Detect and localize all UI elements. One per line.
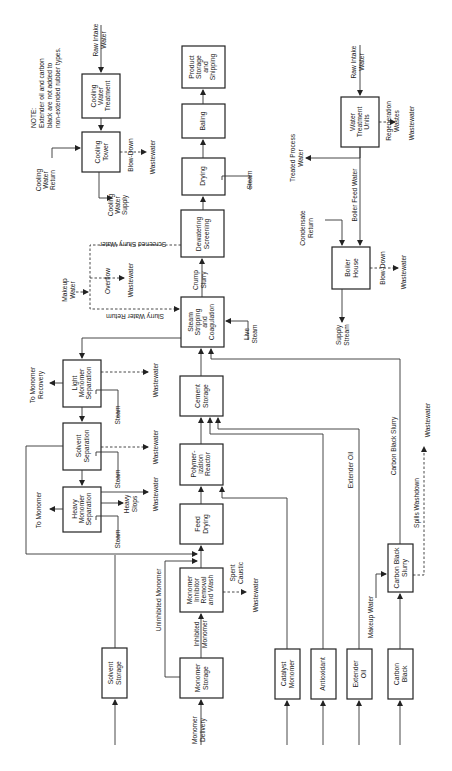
svg-text:CondensateReturn: CondensateReturn — [299, 210, 314, 246]
box-baling: Baling — [182, 104, 225, 138]
box-water-treatment-units: WaterTreatmentUnits — [341, 97, 379, 147]
svg-text:Polymer-izationReactor: Polymer-izationReactor — [190, 450, 211, 477]
box-solvent-separation: SolventSeparation — [63, 423, 101, 470]
box-drying: Drying — [182, 158, 225, 195]
svg-text:CrumpSlurry: CrumpSlurry — [192, 270, 208, 290]
svg-text:Uninhibited Monomer: Uninhibited Monomer — [155, 568, 162, 631]
svg-text:Steam: Steam — [114, 405, 121, 425]
svg-text:MonomerStorage: MonomerStorage — [194, 663, 210, 692]
box-inhibitor-removal: MonomerInhibitorRemovaland Wash — [180, 568, 223, 612]
svg-text:CatalystMonomer: CatalystMonomer — [280, 659, 295, 688]
box-feed-drying: FeedDrying — [180, 504, 223, 544]
svg-text:MakeupWater: MakeupWater — [61, 278, 76, 302]
box-carbon-black-slurry: Carbon BlackSlurry — [388, 544, 413, 592]
svg-text:Extender Oil: Extender Oil — [347, 451, 354, 488]
box-polymerization-reactor: Polymer-izationReactor — [180, 444, 223, 485]
svg-text:Slurry Water Return: Slurry Water Return — [106, 312, 164, 320]
svg-text:Makeup Water: Makeup Water — [367, 595, 375, 638]
box-cement-storage: CementStorage — [180, 376, 223, 416]
svg-text:Wastewater: Wastewater — [152, 429, 159, 464]
box-steam-stripping: SteamStrippingandCoagulation — [181, 297, 224, 347]
svg-text:Wastewater: Wastewater — [152, 476, 159, 511]
svg-text:HeavySlops: HeavySlops — [123, 494, 139, 513]
svg-text:Wastewater: Wastewater — [152, 362, 159, 397]
svg-text:Steam: Steam — [114, 529, 121, 549]
svg-text:Antioxidant: Antioxidant — [319, 657, 326, 691]
box-extender-oil: ExtenderOil — [347, 649, 372, 699]
svg-text:Wastewater: Wastewater — [252, 577, 259, 612]
svg-text:Wastewater: Wastewater — [424, 402, 431, 437]
svg-text:Treated ProcessWater: Treated ProcessWater — [289, 133, 304, 182]
svg-text:Steam: Steam — [246, 170, 253, 190]
box-dewatering-screening: DewateringScreening — [181, 210, 224, 257]
box-light-monomer-separation: LightMonomerSeparation — [63, 360, 101, 407]
svg-text:CoolingWaterSupply: CoolingWaterSupply — [107, 193, 129, 216]
svg-text:RegenerationWastes: RegenerationWastes — [385, 101, 400, 141]
box-carbon-black: CarbonBlack — [388, 649, 413, 699]
process-flow-diagram: SolventStorage MonomerStorage MonomerInh… — [0, 0, 452, 771]
svg-text:BoilerHouse: BoilerHouse — [344, 258, 359, 278]
svg-text:Screened Slurry Water: Screened Slurry Water — [99, 240, 166, 248]
svg-text:SolventStorage: SolventStorage — [107, 661, 123, 685]
svg-text:Boiler Feed Water: Boiler Feed Water — [351, 168, 358, 222]
svg-text:Blow-Down: Blow-Down — [127, 138, 134, 172]
svg-text:Spills Washdown: Spills Washdown — [413, 478, 421, 528]
svg-text:Carbon Black Slurry: Carbon Black Slurry — [390, 416, 398, 475]
box-monomer-storage: MonomerStorage — [180, 658, 223, 698]
svg-text:Raw IntakeWater: Raw IntakeWater — [92, 23, 107, 56]
svg-text:CoolingWaterReturn: CoolingWaterReturn — [35, 168, 56, 191]
svg-text:FeedDrying: FeedDrying — [194, 514, 210, 534]
svg-text:Baling: Baling — [199, 111, 207, 130]
box-cooling-water-treatment: CoolingWaterTreatment — [82, 74, 120, 118]
svg-text:Wastewater: Wastewater — [149, 139, 156, 174]
svg-text:Wastewater: Wastewater — [400, 254, 407, 289]
svg-text:Drying: Drying — [199, 166, 207, 186]
svg-text:CarbonBlack: CarbonBlack — [393, 663, 408, 686]
svg-text:To Monomer: To Monomer — [35, 491, 42, 528]
svg-text:Steam: Steam — [114, 469, 121, 489]
box-cooling-tower: CoolingTower — [82, 132, 120, 172]
box-heavy-monomer-separation: HeavyMonomerSeparation — [63, 487, 101, 532]
svg-text:To MonomerRecovery: To MonomerRecovery — [29, 366, 45, 403]
svg-text:Wastewater: Wastewater — [127, 262, 134, 297]
dashed-lines — [76, 122, 424, 592]
box-antioxidant: Antioxidant — [311, 649, 336, 699]
svg-text:CoolingTower: CoolingTower — [94, 140, 109, 163]
svg-text:MonomerInhibitorRemovaland Was: MonomerInhibitorRemovaland Wash — [186, 575, 214, 606]
svg-text:LiveSteam: LiveSteam — [243, 324, 258, 344]
svg-text:CementStorage: CementStorage — [194, 384, 210, 408]
box-product-storage: ProductStorageandShipping — [182, 46, 225, 88]
svg-text:InhibitedMonomer: InhibitedMonomer — [193, 619, 208, 648]
box-solvent-storage: SolventStorage — [102, 648, 127, 698]
box-boiler-house: BoilerHouse — [332, 247, 370, 289]
note: NOTE:Extender oil and carbonblack are no… — [30, 47, 62, 128]
svg-text:Overflow: Overflow — [104, 268, 111, 294]
svg-text:DewateringScreening: DewateringScreening — [195, 217, 211, 252]
svg-text:SpentCaustic: SpentCaustic — [229, 561, 244, 584]
svg-text:Wastewater: Wastewater — [408, 105, 415, 140]
svg-text:Blow-Down: Blow-Down — [379, 251, 386, 285]
svg-text:NOTE:Extender oil and carbonbl: NOTE:Extender oil and carbonblack are no… — [30, 47, 62, 128]
svg-text:SupplyStream: SupplyStream — [335, 324, 350, 346]
svg-text:Raw IntakeWater: Raw IntakeWater — [350, 45, 365, 78]
svg-text:MonomerDelivery: MonomerDelivery — [191, 715, 207, 744]
box-catalyst-monomer: CatalystMonomer — [275, 649, 300, 699]
